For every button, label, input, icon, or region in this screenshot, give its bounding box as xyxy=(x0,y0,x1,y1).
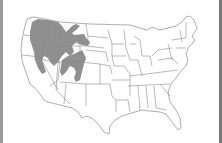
us-map xyxy=(0,0,222,143)
map-frame xyxy=(0,0,222,143)
